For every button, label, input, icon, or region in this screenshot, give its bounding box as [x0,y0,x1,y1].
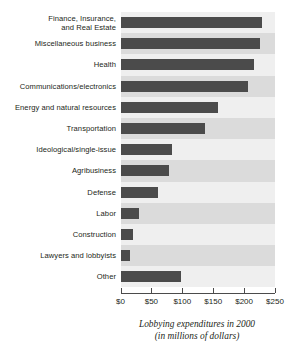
chart-row: Energy and natural resources [0,97,295,118]
x-axis-tick-label: $100 [173,297,191,306]
x-axis-tick [244,288,245,293]
chart-bar [121,165,170,176]
chart-bar [121,59,254,70]
chart-bar [121,81,249,92]
x-axis-tick [151,288,152,293]
chart-bar [121,38,261,49]
chart-bar [121,229,134,240]
category-label-line-2: and Real Estate [0,23,116,32]
lobbying-expenditures-bar-chart: Finance, Insurance,and Real EstateMiscel… [0,0,295,352]
x-axis-tick-label: $0 [116,297,125,306]
chart-row: Defense [0,182,295,203]
x-axis-tick-labels: $0$50$100$150$200$250 [0,297,295,309]
category-label: Labor [0,209,116,218]
chart-row: Lawyers and lobbyists [0,245,295,266]
category-label: Agribusiness [0,166,116,175]
row-band [121,203,276,224]
category-label: Finance, Insurance,and Real Estate [0,14,116,32]
chart-row: Health [0,54,295,75]
chart-row: Agribusiness [0,160,295,181]
chart-row: Finance, Insurance,and Real Estate [0,12,295,33]
category-label: Energy and natural resources [0,103,116,112]
category-label: Lawyers and lobbyists [0,251,116,260]
chart-bar [121,102,219,113]
row-band [121,224,276,245]
caption-line-1: Lobbying expenditures in 2000 [139,319,255,329]
x-axis-tick [275,288,276,293]
x-axis-tick-label: $150 [204,297,222,306]
x-axis-tick-label: $50 [145,297,158,306]
x-axis-tick [121,288,122,293]
category-label: Communications/electronics [0,82,116,91]
chart-row: Miscellaneous business [0,33,295,54]
chart-bar [121,271,182,282]
chart-bar [121,187,158,198]
category-label: Transportation [0,124,116,133]
chart-bar [121,250,130,261]
x-axis-tick-label: $250 [266,297,284,306]
chart-row: Construction [0,224,295,245]
row-band [121,245,276,266]
category-label: Construction [0,230,116,239]
chart-bar [121,17,263,28]
x-axis-tick-label: $200 [235,297,253,306]
chart-bar [121,208,140,219]
category-label: Miscellaneous business [0,39,116,48]
chart-row: Labor [0,203,295,224]
x-axis-tick [213,288,214,293]
category-label: Health [0,60,116,69]
chart-plot-area: Finance, Insurance,and Real EstateMiscel… [0,12,295,287]
chart-row: Transportation [0,118,295,139]
category-label-line-1: Finance, Insurance, [48,14,116,23]
x-axis-tick [182,288,183,293]
caption-line-2: (in millions of dollars) [155,331,240,341]
category-label: Defense [0,188,116,197]
chart-row: Ideological/single-issue [0,139,295,160]
x-axis-line [121,293,276,294]
chart-bar [121,144,173,155]
chart-row: Other [0,266,295,287]
chart-row: Communications/electronics [0,76,295,97]
chart-caption: Lobbying expenditures in 2000 (in millio… [104,319,290,342]
category-label: Ideological/single-issue [0,145,116,154]
chart-bar [121,123,205,134]
category-label: Other [0,272,116,281]
